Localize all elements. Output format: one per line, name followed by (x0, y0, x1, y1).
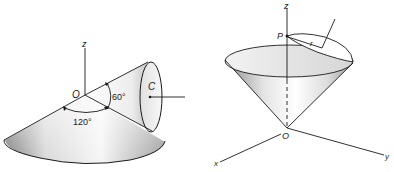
left-figure: z O 60° 120° C (4, 39, 185, 164)
left-z-label: z (81, 39, 87, 49)
diagram-canvas: z O 60° 120° C x y z (0, 0, 394, 172)
y-axis (287, 128, 384, 155)
angle-120-label: 120° (73, 117, 92, 127)
right-z-label: z (283, 1, 289, 11)
left-origin-label: O (72, 89, 80, 100)
radius-label: r (310, 39, 313, 48)
point-p-label: P (277, 31, 283, 41)
right-origin-label: O (282, 131, 289, 141)
y-label: y (384, 152, 390, 161)
x-axis (220, 134, 281, 162)
center-label: C (148, 81, 156, 92)
x-label: x (213, 159, 219, 168)
right-figure: x y z P r O (213, 1, 390, 168)
angle-60-label: 60° (112, 92, 126, 102)
